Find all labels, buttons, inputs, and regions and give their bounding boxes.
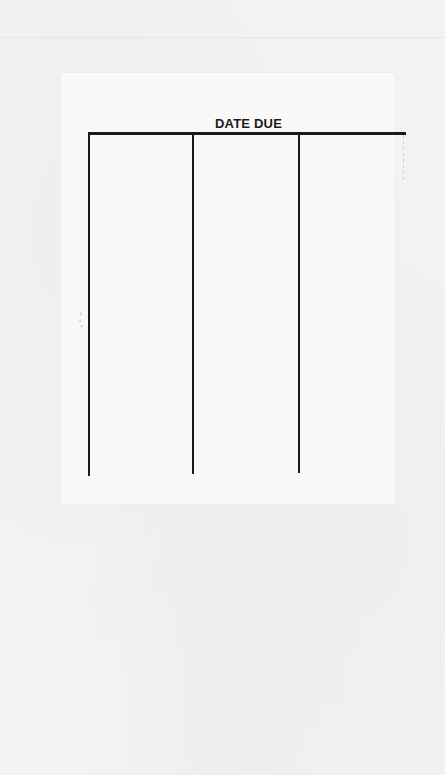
header-rule — [88, 132, 406, 135]
column-divider-3 — [298, 133, 300, 473]
scan-artifact — [78, 310, 84, 328]
slip-edge-mark — [403, 135, 404, 180]
date-due-slip — [60, 72, 396, 505]
paper-fold-line — [0, 37, 445, 38]
slip-title: DATE DUE — [0, 116, 445, 131]
column-divider-1 — [88, 133, 90, 476]
column-divider-2 — [192, 133, 194, 474]
